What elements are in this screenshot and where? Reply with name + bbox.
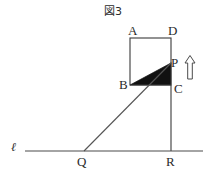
vertex-label-b: B	[119, 78, 128, 91]
shaded-triangle-bcp	[130, 63, 171, 85]
vertex-label-p: P	[171, 56, 178, 69]
figure-canvas: 図3 A D P B C ℓ Q R	[0, 0, 216, 173]
segment-qp	[84, 63, 172, 152]
figure-drawing	[0, 0, 216, 173]
vertex-label-c: C	[174, 82, 183, 95]
vertex-label-q: Q	[77, 155, 86, 168]
figure-title: 図3	[104, 6, 122, 17]
vertex-label-r: R	[166, 155, 175, 168]
vertex-label-d: D	[168, 24, 177, 37]
vertex-label-a: A	[128, 24, 137, 37]
arrow-up-icon	[185, 56, 195, 80]
line-label-l: ℓ	[11, 141, 16, 154]
